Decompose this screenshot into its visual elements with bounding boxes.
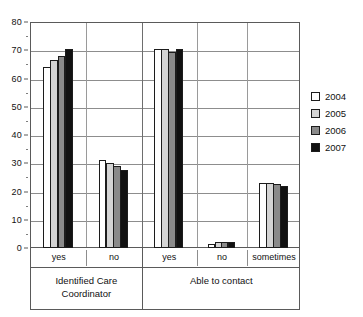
y-axis-minor-tick xyxy=(26,36,28,37)
group-label: Identified CareCoordinator xyxy=(31,274,142,300)
y-axis-tick xyxy=(24,191,28,192)
y-axis-tick-label: 70 xyxy=(12,45,22,55)
y-axis-tick-label: 60 xyxy=(12,74,22,84)
bar xyxy=(228,242,235,248)
y-axis-tick-label: 20 xyxy=(12,187,22,197)
legend-swatch-icon xyxy=(311,126,320,135)
group-label-line: Coordinator xyxy=(31,287,142,300)
legend-swatch-icon xyxy=(311,92,320,101)
legend-swatch-icon xyxy=(311,143,320,152)
legend-item-2005[interactable]: 2005 xyxy=(311,105,361,122)
y-axis-minor-tick xyxy=(26,121,28,122)
category-axis-divider xyxy=(197,250,198,266)
y-axis-minor-tick xyxy=(26,234,28,235)
legend: 2004200520062007 xyxy=(311,88,361,156)
bar xyxy=(176,49,184,248)
y-axis-tick-label: 10 xyxy=(12,215,22,225)
group-axis-divider xyxy=(142,268,143,310)
legend-label: 2006 xyxy=(325,125,346,136)
bars-layer xyxy=(30,22,300,248)
y-axis-tick xyxy=(24,163,28,164)
category-axis-divider xyxy=(142,248,143,268)
legend-item-2004[interactable]: 2004 xyxy=(311,88,361,105)
y-axis-tick-label: 80 xyxy=(12,17,22,27)
category-label: sometimes xyxy=(247,252,301,263)
group-label: Able to contact xyxy=(142,274,301,287)
y-axis: 80706050403020100 xyxy=(0,22,27,248)
category-axis-divider xyxy=(247,250,248,266)
y-axis-tick-label: 40 xyxy=(12,130,22,140)
group-label-line: Able to contact xyxy=(142,274,301,287)
category-label: no xyxy=(197,252,247,263)
y-axis-tick xyxy=(24,22,28,23)
y-axis-minor-tick xyxy=(26,206,28,207)
category-axis: yesnoyesnosometimes xyxy=(30,248,300,268)
legend-item-2007[interactable]: 2007 xyxy=(311,139,361,156)
y-axis-minor-tick xyxy=(26,64,28,65)
bar xyxy=(65,49,73,248)
y-axis-tick xyxy=(24,106,28,107)
y-axis-tick xyxy=(24,78,28,79)
legend-label: 2007 xyxy=(325,142,346,153)
y-axis-minor-tick xyxy=(26,149,28,150)
bar xyxy=(280,186,288,248)
bar xyxy=(120,170,128,248)
group-axis: Identified CareCoordinatorAble to contac… xyxy=(30,268,300,310)
group-label-line: Identified Care xyxy=(31,274,142,287)
y-axis-tick xyxy=(24,135,28,136)
category-label: yes xyxy=(31,252,86,263)
category-axis-divider xyxy=(86,250,87,266)
y-axis-tick-label: 30 xyxy=(12,158,22,168)
y-axis-tick-label: 50 xyxy=(12,102,22,112)
legend-label: 2004 xyxy=(325,91,346,102)
y-axis-tick xyxy=(24,248,28,249)
category-label: yes xyxy=(142,252,197,263)
y-axis-tick-label: 0 xyxy=(17,243,22,253)
y-axis-tick xyxy=(24,219,28,220)
y-axis-minor-tick xyxy=(26,93,28,94)
y-axis-tick xyxy=(24,50,28,51)
legend-swatch-icon xyxy=(311,109,320,118)
legend-item-2006[interactable]: 2006 xyxy=(311,122,361,139)
bar-chart: 80706050403020100 yesnoyesnosometimes Id… xyxy=(0,0,363,317)
legend-label: 2005 xyxy=(325,108,346,119)
chart-title xyxy=(0,0,363,9)
y-axis-minor-tick xyxy=(26,177,28,178)
category-label: no xyxy=(86,252,141,263)
